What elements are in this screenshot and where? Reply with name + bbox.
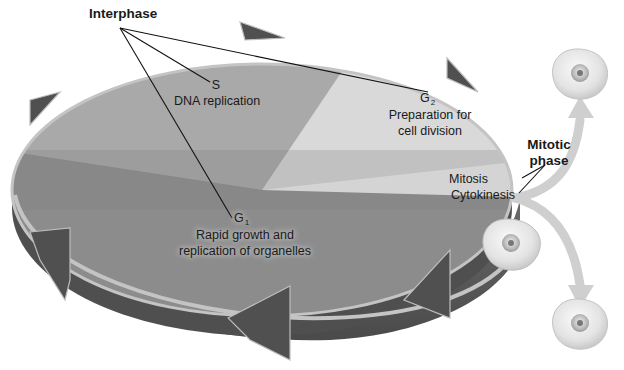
g2-letter: G <box>420 91 430 105</box>
cytokinesis-label: Cytokinesis <box>451 188 515 203</box>
arrow-icon <box>447 58 478 92</box>
arrow-icon <box>240 22 285 40</box>
mitotic-phase-label-line1: Mitotic <box>524 137 574 152</box>
s-phase-name: S <box>196 78 236 93</box>
cell-daughter-top <box>553 49 608 99</box>
g1-phase-description-line1: Rapid growth and <box>180 228 310 243</box>
g2-phase-name: G2 <box>420 91 435 107</box>
cell-cycle-diagram: Interphase S DNA replication G2 Preparat… <box>0 0 624 370</box>
cell-cycle-graphic <box>0 0 624 370</box>
mitosis-label: Mitosis <box>449 172 488 187</box>
g1-letter: G <box>234 211 244 225</box>
g2-phase-description-line2: cell division <box>380 124 480 139</box>
cell-daughter-bottom <box>553 299 608 349</box>
arrow-icon <box>30 228 70 300</box>
g1-subscript: 1 <box>245 218 249 227</box>
g1-phase-name: G1 <box>234 211 249 227</box>
g2-subscript: 2 <box>431 98 435 107</box>
g1-phase-description-line2: replication of organelles <box>172 244 318 259</box>
mitotic-phase-label-line2: phase <box>524 153 574 168</box>
s-phase-description: DNA replication <box>174 94 260 109</box>
cell-parent <box>483 219 540 270</box>
g2-phase-description-line1: Preparation for <box>380 108 480 123</box>
interphase-label: Interphase <box>89 6 157 21</box>
